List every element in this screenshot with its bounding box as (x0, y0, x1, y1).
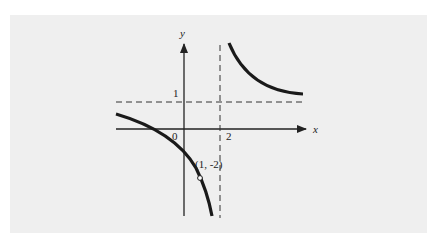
y-tick-1-label: 1 (173, 87, 179, 99)
x-axis-label: x (312, 123, 318, 135)
origin-label: 0 (172, 130, 178, 142)
x-tick-2-label: 2 (226, 130, 232, 142)
rational-function-graph: y x 0 2 1 (1, -2) (0, 0, 440, 244)
y-axis-label: y (179, 27, 185, 39)
point-label: (1, -2) (195, 158, 223, 171)
open-point-marker (198, 176, 203, 181)
curve-upper-right-branch (229, 43, 303, 94)
